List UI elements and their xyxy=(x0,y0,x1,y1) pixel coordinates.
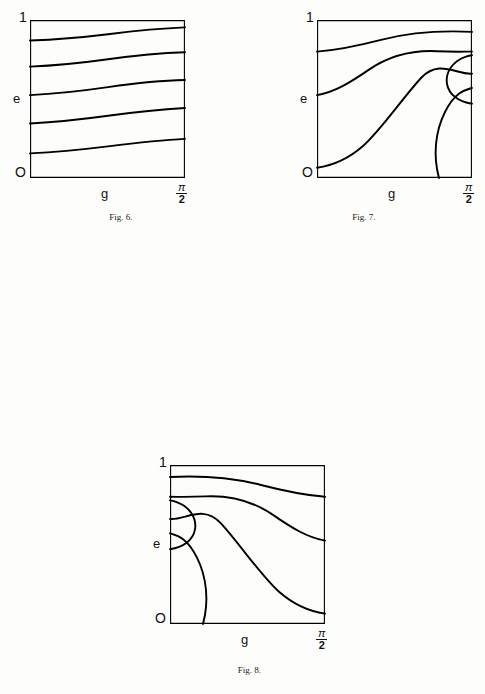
fig6-curves xyxy=(30,27,185,153)
fig7-y-top-label: 1 xyxy=(306,10,314,24)
page-canvas: 1 e O g π 2 Fig. 6. xyxy=(0,0,485,694)
fig6-y-top-label: 1 xyxy=(19,10,27,24)
fig6-plot xyxy=(30,20,185,178)
fig7-svg xyxy=(317,20,472,178)
figure-8: 1 e O g π 2 xyxy=(0,228,485,460)
fig7-y-axis-label: e xyxy=(300,92,307,105)
figure-10: 1 e O g π 2 xyxy=(243,460,485,694)
fig6-svg xyxy=(30,20,185,178)
fig7-caption: Fig. 7. xyxy=(243,212,485,222)
fig6-x-max-label: π 2 xyxy=(176,182,187,205)
fig6-x-axis-label: g xyxy=(101,187,108,200)
fig7-curves xyxy=(317,31,472,178)
fig6-y-axis-label: e xyxy=(13,92,20,105)
fig6-caption: Fig. 6. xyxy=(0,212,242,222)
fig7-x-max-denominator: 2 xyxy=(463,194,474,205)
figure-6: 1 e O g π 2 Fig. 6. xyxy=(0,0,242,230)
fig7-plot xyxy=(317,20,472,178)
fig7-x-axis-label: g xyxy=(388,187,395,200)
fig6-frame xyxy=(31,21,185,178)
fig7-x-max-label: π 2 xyxy=(463,182,474,205)
fig7-y-origin-label: O xyxy=(302,165,313,179)
fig6-y-origin-label: O xyxy=(15,165,26,179)
fig6-x-max-denominator: 2 xyxy=(176,194,187,205)
figure-7: 1 e O g π 2 xyxy=(243,0,485,230)
figure-9: 1 e O g π 2 xyxy=(0,460,242,694)
fig7-frame xyxy=(318,21,472,178)
